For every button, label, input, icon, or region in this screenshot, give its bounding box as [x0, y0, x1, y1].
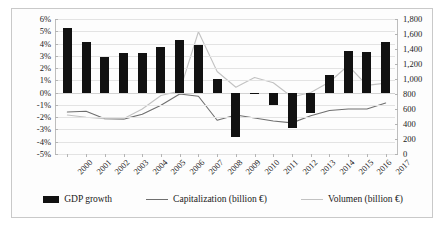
left-axis-tickmark: [55, 19, 58, 20]
bar: [362, 52, 371, 93]
x-axis-tick-label: 2012: [300, 158, 318, 176]
left-axis-tick-label: 4%: [40, 39, 51, 48]
x-axis-tickmark: [86, 154, 87, 157]
x-axis-tickmark: [180, 154, 181, 157]
right-axis-line: [397, 19, 398, 154]
gridline: [58, 154, 395, 155]
gridline: [58, 93, 395, 94]
left-axis-tick-label: -4%: [37, 137, 51, 146]
right-axis-tick-label: 1,400: [403, 45, 422, 54]
right-axis-tick-label: 1,000: [403, 75, 422, 84]
x-axis-tickmark: [255, 154, 256, 157]
left-axis-tick-label: -3%: [37, 125, 51, 134]
right-axis-tickmark: [395, 49, 398, 50]
legend-line-swatch-icon: [301, 199, 323, 200]
x-axis-tick-label: 2017: [394, 158, 412, 176]
left-axis-tickmark: [55, 142, 58, 143]
x-axis-tickmark: [329, 154, 330, 157]
right-axis-tick-label: 1,800: [403, 15, 422, 24]
left-axis-tickmark: [55, 129, 58, 130]
x-axis-tickmark: [292, 154, 293, 157]
legend-bar-swatch-icon: [43, 196, 59, 203]
x-axis-tick-label: 2007: [207, 158, 225, 176]
bar: [381, 42, 390, 92]
left-axis-tickmark: [55, 105, 58, 106]
x-axis-tick-label: 2011: [282, 158, 300, 176]
right-axis-tickmark: [395, 109, 398, 110]
x-axis-tick-label: 2010: [263, 158, 281, 176]
bar: [82, 42, 91, 92]
right-axis-tickmark: [395, 124, 398, 125]
bar: [194, 45, 203, 93]
bar: [175, 40, 184, 93]
right-axis-tick-label: 800: [403, 90, 416, 99]
right-axis-tickmark: [395, 94, 398, 95]
right-axis-tickmark: [395, 34, 398, 35]
x-axis-tickmark: [367, 154, 368, 157]
left-axis-tick-label: 5%: [40, 27, 51, 36]
left-axis-tick-label: 1%: [40, 76, 51, 85]
bar: [288, 93, 297, 129]
right-axis-tickmark: [395, 19, 398, 20]
x-axis-tickmark: [217, 154, 218, 157]
right-axis-tick-label: 400: [403, 120, 416, 129]
bar: [325, 75, 334, 92]
left-axis-tick-label: -5%: [37, 150, 51, 159]
x-axis-tick-label: 2009: [244, 158, 262, 176]
legend-item[interactable]: GDP growth: [43, 194, 112, 204]
bar: [306, 93, 315, 114]
x-axis-tickmark: [273, 154, 274, 157]
bar: [156, 47, 165, 92]
x-axis-tick-label: 2006: [188, 158, 206, 176]
left-axis-line: [55, 19, 56, 154]
left-axis-tickmark: [55, 93, 58, 94]
x-axis-tick-label: 2003: [132, 158, 150, 176]
x-axis-tick-label: 2002: [113, 158, 131, 176]
x-axis-tickmark: [198, 154, 199, 157]
bar: [63, 28, 72, 93]
x-axis-tick-label: 2016: [375, 158, 393, 176]
gridline: [58, 117, 395, 118]
gridline: [58, 19, 395, 20]
bar: [119, 53, 128, 92]
x-axis-tick-label: 2001: [95, 158, 113, 176]
x-axis-tick-label: 2000: [76, 158, 94, 176]
left-axis-tickmark: [55, 44, 58, 45]
bar: [213, 79, 222, 93]
x-axis-tickmark: [124, 154, 125, 157]
x-axis-tickmark: [105, 154, 106, 157]
left-axis-tick-label: 6%: [40, 15, 51, 24]
gridline: [58, 142, 395, 143]
left-axis-tick-label: 2%: [40, 64, 51, 73]
bar: [231, 93, 240, 137]
chart-figure: 6%5%4%3%2%1%0%-1%-2%-3%-4%-5% 1,8001,600…: [11, 8, 433, 218]
bar: [269, 93, 278, 105]
plot-area: 6%5%4%3%2%1%0%-1%-2%-3%-4%-5% 1,8001,600…: [58, 19, 395, 154]
x-axis-tick-label: 2015: [357, 158, 375, 176]
right-axis-tickmark: [395, 64, 398, 65]
legend-item[interactable]: Capitalization (billion €): [146, 194, 267, 204]
x-axis-tick-label: 2005: [169, 158, 187, 176]
left-axis-tickmark: [55, 154, 58, 155]
legend-label: Capitalization (billion €): [173, 194, 267, 204]
bar: [344, 51, 353, 93]
x-axis-tickmark: [67, 154, 68, 157]
x-axis-tick-label: 2008: [226, 158, 244, 176]
left-axis-tick-label: 0%: [40, 88, 51, 97]
left-axis-tick-label: -1%: [37, 100, 51, 109]
left-axis-tickmark: [55, 68, 58, 69]
bar: [100, 57, 109, 93]
right-axis-tick-label: 1,600: [403, 30, 422, 39]
legend-label: GDP growth: [64, 194, 112, 204]
x-axis-tickmark: [236, 154, 237, 157]
gridline: [58, 105, 395, 106]
gridline: [58, 129, 395, 130]
left-axis-tickmark: [55, 31, 58, 32]
gridline: [58, 44, 395, 45]
left-axis-tick-label: 3%: [40, 51, 51, 60]
bar: [138, 53, 147, 92]
legend-item[interactable]: Volumen (billion €): [301, 194, 403, 204]
right-axis-tick-label: 200: [403, 135, 416, 144]
right-axis-tickmark: [395, 154, 398, 155]
right-axis-tickmark: [395, 139, 398, 140]
